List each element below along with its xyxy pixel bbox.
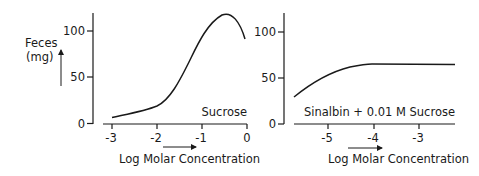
y-tick-label: 0 [78,117,85,131]
y-axis-label-line1: Feces [25,36,57,50]
series-annotation: Sucrose [202,105,248,119]
x-tick-label: -3 [105,131,116,145]
y-tick-label: 50 [70,70,85,84]
y-axis-label-line2: (mg) [26,50,53,64]
figure: Feces (mg) 100 50 0 -3 -2 -1 0 Log Molar… [0,0,479,176]
sucrose-curve [112,14,245,117]
x-tick-label: -5 [321,131,332,145]
x-axis-label: Log Molar Concentration [328,152,469,166]
x-tick-label: -1 [195,131,206,145]
y-tick-label: 0 [269,117,276,131]
left-chart: Feces (mg) 100 50 0 -3 -2 -1 0 Log Molar… [25,13,260,166]
x-tick-label: -2 [150,131,161,145]
y-tick-label: 100 [254,25,276,39]
series-annotation: Sinalbin + 0.01 M Sucrose [304,105,455,119]
x-tick-label: -3 [412,131,423,145]
x-tick-label: 0 [243,131,250,145]
right-chart: 100 50 0 -5 -4 -3 Log Molar Concentratio… [254,13,469,166]
x-axis-label: Log Molar Concentration [119,152,260,166]
sinalbin-curve [294,64,455,97]
x-tick-label: -4 [367,131,378,145]
y-tick-label: 100 [63,24,85,38]
y-tick-label: 50 [261,71,276,85]
